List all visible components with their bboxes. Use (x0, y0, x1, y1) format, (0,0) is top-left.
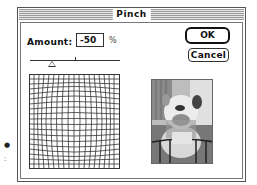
amount-label: Amount: (27, 37, 72, 47)
slider-thumb[interactable] (48, 61, 56, 67)
image-preview (151, 79, 213, 164)
title-bar[interactable]: Pinch (19, 9, 244, 20)
dialog-title: Pinch (112, 8, 150, 21)
pinch-grid-preview (29, 74, 120, 169)
pinch-grid-icon (29, 74, 120, 169)
percent-label: % (109, 36, 117, 45)
bulldog-photo-icon (152, 80, 213, 164)
edge-mark: ● (4, 141, 10, 149)
amount-input[interactable]: -50 (76, 33, 104, 47)
slider-center-tick (75, 57, 76, 61)
ok-button[interactable]: OK (185, 27, 230, 44)
edge-mark: : (4, 155, 6, 163)
cancel-button[interactable]: Cancel (188, 48, 229, 62)
